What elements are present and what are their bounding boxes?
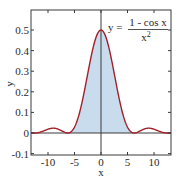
- x-tick-label: 10: [149, 156, 161, 168]
- x-axis-label: x: [98, 166, 104, 178]
- formula-denominator: x2: [141, 30, 151, 43]
- y-tick-label: 0: [24, 127, 30, 139]
- formula-lhs: y =: [108, 21, 122, 33]
- y-tick-label: 0.3: [15, 65, 29, 77]
- x-tick-label: -5: [70, 156, 80, 168]
- y-tick-label: 0.2: [15, 86, 29, 98]
- chart: -10-50510 -0.100.10.20.30.40.5 x y y = 1…: [0, 0, 180, 185]
- y-tick-labels: -0.100.10.20.30.40.5: [12, 24, 30, 160]
- x-tick-label: -10: [41, 156, 56, 168]
- y-tick-label: 0.5: [15, 24, 29, 36]
- y-tick-label: 0.1: [15, 106, 29, 118]
- formula-annotation: y = 1 - cos x x2: [108, 16, 168, 43]
- formula-numerator: 1 - cos x: [129, 16, 167, 28]
- y-tick-label: 0.4: [15, 45, 29, 57]
- y-tick-label: -0.1: [12, 148, 29, 160]
- x-tick-label: 5: [125, 156, 131, 168]
- y-axis-label: y: [3, 81, 15, 87]
